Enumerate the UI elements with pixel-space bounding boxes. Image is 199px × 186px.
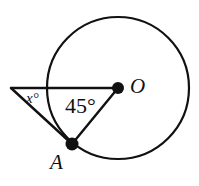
- geometry-figure: O A 45° x°: [0, 0, 199, 186]
- center-point-dot: [112, 82, 124, 94]
- vertex-angle-label: x°: [26, 91, 39, 106]
- point-a-dot: [66, 138, 79, 151]
- center-angle-label: 45°: [65, 95, 96, 117]
- center-point-label: O: [130, 76, 145, 97]
- segment-vertex-to-point-a: [11, 88, 72, 144]
- point-a-label: A: [50, 152, 63, 173]
